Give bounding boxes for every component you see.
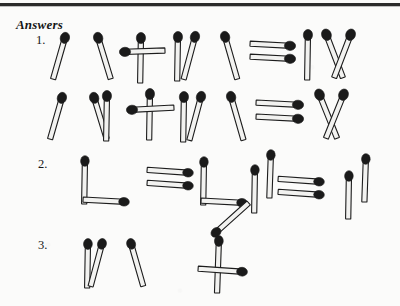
item3-glyph-IV xyxy=(83,237,148,288)
item2-glyph-equals-first xyxy=(147,166,194,191)
item2-glyph-L-first xyxy=(80,156,130,207)
item2-glyph-equals-second xyxy=(278,175,325,200)
item2-glyph-II-first xyxy=(250,150,275,214)
item1-row1-glyph-IV xyxy=(173,30,242,81)
item1-row1-glyph-equals xyxy=(250,39,296,64)
item2-glyph-L-second xyxy=(199,157,248,208)
item1-row1-glyph-plus xyxy=(119,32,165,83)
item1-row2-glyph-plus xyxy=(126,88,174,140)
item1-row2-glyph-X xyxy=(313,88,350,141)
item2-glyph-II-second xyxy=(344,154,370,220)
matchstick-stage xyxy=(0,0,400,306)
item1-row1-glyph-V xyxy=(49,31,116,80)
matchstick-drawing xyxy=(0,0,400,306)
item1-row2-glyph-IV xyxy=(179,90,248,142)
answers-page: Answers 1. 2. 3. xyxy=(0,0,400,306)
item1-row1-glyph-IX xyxy=(303,28,358,80)
item1-row2-glyph-VI xyxy=(46,90,112,141)
item3-glyph-four xyxy=(198,200,252,294)
item1-row2-glyph-equals xyxy=(256,98,304,124)
